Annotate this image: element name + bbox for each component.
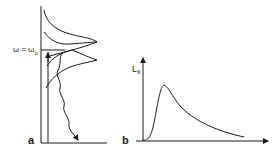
y-axis-label: Lx (132, 65, 141, 75)
resonance-condition-label: ω = ωo (13, 46, 38, 56)
y-axis-label-subscript: x (137, 68, 141, 75)
panel-b (136, 58, 268, 141)
panel-a-label: a (28, 135, 34, 146)
resonance-condition-subscript: o (35, 50, 38, 56)
panel-a (41, 6, 107, 143)
upper-lorentzian-curve (44, 32, 97, 66)
panel-b-label: b (122, 135, 129, 146)
diagram-canvas (0, 0, 279, 160)
luminescence-curve (143, 85, 244, 140)
lower-lorentzian-curve (46, 50, 97, 88)
upper-band-curve (44, 10, 97, 42)
resonance-condition-text: ω = ω (13, 45, 35, 54)
